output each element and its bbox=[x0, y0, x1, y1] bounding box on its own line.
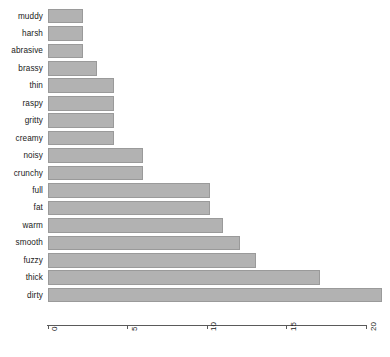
bar bbox=[48, 61, 97, 76]
bar-row: crunchy bbox=[0, 165, 390, 182]
category-label: fat bbox=[0, 199, 43, 216]
bar bbox=[48, 78, 115, 93]
category-label: harsh bbox=[0, 25, 43, 42]
bar-row: harsh bbox=[0, 25, 390, 42]
bar bbox=[48, 288, 383, 303]
bar bbox=[48, 26, 83, 41]
bar-row: full bbox=[0, 182, 390, 199]
x-tick-label: 20 bbox=[370, 322, 378, 331]
category-label: noisy bbox=[0, 147, 43, 164]
bar bbox=[48, 9, 83, 24]
x-tick bbox=[286, 325, 287, 329]
bar bbox=[48, 113, 115, 128]
category-label: dirty bbox=[0, 287, 43, 304]
bar-row: thin bbox=[0, 77, 390, 94]
bar bbox=[48, 253, 257, 268]
category-label: raspy bbox=[0, 95, 43, 112]
category-label: fuzzy bbox=[0, 252, 43, 269]
x-tick bbox=[366, 325, 367, 329]
bar-row: abrasive bbox=[0, 42, 390, 59]
x-tick-label: 15 bbox=[290, 322, 298, 331]
bar-chart: muddyharshabrasivebrassythinraspygrittyc… bbox=[0, 0, 390, 357]
category-label: creamy bbox=[0, 130, 43, 147]
bar bbox=[48, 183, 210, 198]
category-label: abrasive bbox=[0, 42, 43, 59]
bar-row: gritty bbox=[0, 112, 390, 129]
category-label: gritty bbox=[0, 112, 43, 129]
bar bbox=[48, 44, 83, 59]
category-label: full bbox=[0, 182, 43, 199]
bar-row: muddy bbox=[0, 8, 390, 25]
x-tick-label: 5 bbox=[131, 327, 139, 331]
category-label: warm bbox=[0, 217, 43, 234]
x-tick bbox=[127, 325, 128, 329]
category-label: crunchy bbox=[0, 165, 43, 182]
x-tick-label: 0 bbox=[51, 327, 59, 331]
category-label: thin bbox=[0, 77, 43, 94]
bar-row: thick bbox=[0, 269, 390, 286]
bar-row: warm bbox=[0, 217, 390, 234]
bar bbox=[48, 131, 115, 146]
bar bbox=[48, 270, 320, 285]
bar-row: fuzzy bbox=[0, 252, 390, 269]
bar-row: noisy bbox=[0, 147, 390, 164]
bar bbox=[48, 236, 241, 251]
x-tick-label: 10 bbox=[210, 322, 218, 331]
bar bbox=[48, 148, 144, 163]
category-label: thick bbox=[0, 269, 43, 286]
bar-row: dirty bbox=[0, 287, 390, 304]
x-tick bbox=[48, 325, 49, 329]
bar bbox=[48, 166, 144, 181]
plot-area: muddyharshabrasivebrassythinraspygrittyc… bbox=[0, 0, 390, 357]
bar-row: brassy bbox=[0, 60, 390, 77]
bar bbox=[48, 201, 210, 216]
category-label: smooth bbox=[0, 234, 43, 251]
category-label: muddy bbox=[0, 8, 43, 25]
bar bbox=[48, 218, 223, 233]
category-label: brassy bbox=[0, 60, 43, 77]
bar bbox=[48, 96, 115, 111]
bar-row: smooth bbox=[0, 234, 390, 251]
bar-row: raspy bbox=[0, 95, 390, 112]
x-tick bbox=[207, 325, 208, 329]
bar-row: fat bbox=[0, 199, 390, 216]
bar-row: creamy bbox=[0, 130, 390, 147]
